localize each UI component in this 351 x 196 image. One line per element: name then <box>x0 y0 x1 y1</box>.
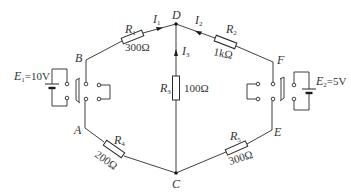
switch-right[interactable] <box>247 77 296 101</box>
wire-c-r5 <box>176 152 226 173</box>
battery-e1-bottom-wire <box>52 89 67 106</box>
node-label-a: A <box>73 123 82 137</box>
switch-left-short-top <box>97 83 101 87</box>
switch-left-battery-bottom <box>65 96 69 100</box>
switch-left-pivot-top <box>84 82 88 86</box>
junction-d <box>174 22 178 26</box>
current-arrow-i1 <box>156 27 163 31</box>
resistor-r3 <box>173 76 180 100</box>
switch-left-pivot-bottom <box>84 97 88 101</box>
node-label-e: E <box>273 125 282 139</box>
switch-right-short-bottom <box>256 97 260 101</box>
resistor-r3-label: R3 <box>159 81 171 96</box>
battery-e2-bottom-wire <box>294 94 309 110</box>
current-arrow-i3 <box>174 49 178 56</box>
switch-right-short-top <box>256 82 260 86</box>
resistor-r2-value: 1kΩ <box>213 45 234 61</box>
junction-c <box>174 171 178 175</box>
switch-left-short-loop <box>101 85 110 99</box>
switch-left[interactable] <box>65 78 110 103</box>
current-arrow-i2 <box>195 31 202 36</box>
current-i2-label: I2 <box>194 13 203 28</box>
wire-r4-c <box>124 156 176 173</box>
resistor-r1-value: 300Ω <box>125 41 150 53</box>
node-label-d: D <box>171 8 181 22</box>
wire-r5-e <box>247 101 272 144</box>
source-e1-label: E1=10V <box>13 69 50 84</box>
wire-b-r1 <box>86 41 122 82</box>
switch-right-pivot-bottom <box>271 97 275 101</box>
battery-e2 <box>294 72 316 110</box>
current-i1-label: I1 <box>152 12 161 27</box>
node-label-c: C <box>172 177 181 191</box>
switch-right-battery-bottom <box>292 97 296 101</box>
resistor-r5-label: R5 <box>229 129 241 144</box>
node-label-b: B <box>75 51 83 65</box>
switch-right-battery-top <box>292 83 296 87</box>
node-label-f: F <box>276 53 285 67</box>
wire-a-r4 <box>85 101 104 142</box>
resistor-r4-label: R4 <box>113 133 125 148</box>
resistor-r1-label: R1 <box>124 22 136 37</box>
resistor-r3-value: 100Ω <box>184 82 209 94</box>
switch-left-short-bottom <box>97 97 101 101</box>
switch-left-battery-top <box>65 82 69 86</box>
battery-e1-top-wire <box>52 69 67 84</box>
battery-e2-top-wire <box>294 72 309 89</box>
resistor-r2-label: R2 <box>225 22 237 37</box>
source-e2-label: E2=5V <box>315 74 347 89</box>
switch-right-pivot-top <box>271 82 275 86</box>
current-i3-label: I3 <box>181 44 190 59</box>
switch-right-short-loop <box>247 84 256 99</box>
circuit-diagram: B A D C F E R1 300Ω R2 1kΩ R3 100Ω R4 20… <box>0 0 351 196</box>
wire-r2-f <box>236 46 273 82</box>
